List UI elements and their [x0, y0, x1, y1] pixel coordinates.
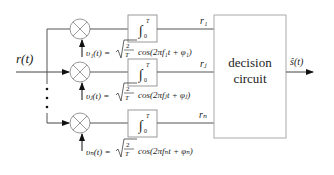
multiplier-n — [70, 113, 90, 133]
svg-text:T: T — [125, 94, 130, 102]
svg-text:υ₁(t) =: υ₁(t) = — [86, 48, 110, 58]
input-label: r(t) — [16, 51, 33, 66]
svg-text:υⱼ(t) =: υⱼ(t) = — [86, 91, 109, 101]
svg-text:0: 0 — [144, 77, 147, 83]
ellipsis-dots — [46, 88, 49, 109]
output-label-rj: rⱼ — [200, 58, 207, 69]
svg-text:0: 0 — [144, 128, 147, 134]
svg-text:2: 2 — [126, 85, 130, 93]
integrator-1: ∫ T 0 — [128, 15, 157, 42]
output-label-r1: r₁ — [200, 15, 207, 26]
svg-text:2: 2 — [126, 42, 130, 50]
svg-text:T: T — [125, 51, 130, 59]
output-label-rn: rₙ — [199, 109, 207, 120]
multiplier-j — [70, 62, 90, 82]
svg-text:2: 2 — [126, 141, 130, 149]
decision-label-line2: circuit — [233, 71, 267, 86]
svg-text:cos(2πf₁t + φ₁): cos(2πf₁t + φ₁) — [138, 47, 192, 57]
svg-text:cos(2πfₙt + φₙ): cos(2πfₙt + φₙ) — [138, 146, 193, 156]
integrator-j: ∫ T 0 — [128, 59, 157, 86]
svg-text:0: 0 — [144, 33, 147, 39]
output-label: ŝ(t) — [290, 56, 304, 68]
integrator-n: ∫ T 0 — [128, 110, 157, 137]
decision-label-line1: decision — [228, 55, 272, 70]
block-diagram: r(t) ∫ T 0 ∫ T — [0, 0, 334, 175]
svg-text:υₙ(t) =: υₙ(t) = — [86, 147, 111, 157]
svg-text:T: T — [125, 150, 130, 158]
decision-circuit: decision circuit — [214, 15, 286, 138]
svg-text:cos(2πfⱼt + φⱼ): cos(2πfⱼt + φⱼ) — [138, 90, 190, 100]
carrier-formula-n: υₙ(t) = 2 T cos(2πfₙt + φₙ) — [86, 139, 193, 158]
multiplier-1 — [70, 19, 90, 39]
carrier-formula-1: υ₁(t) = 2 T cos(2πf₁t + φ₁) — [86, 40, 192, 59]
